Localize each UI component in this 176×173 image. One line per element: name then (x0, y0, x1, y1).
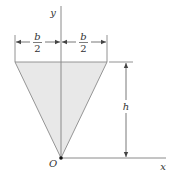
right-half-width-denominator: 2 (80, 43, 86, 54)
left-half-width-denominator: 2 (34, 43, 40, 54)
left-half-width-numerator: b (34, 31, 40, 42)
origin-point (59, 156, 63, 160)
y-axis-label: y (49, 7, 56, 18)
x-axis-label: x (160, 161, 166, 172)
height-label: h (123, 101, 129, 112)
origin-label: O (49, 158, 57, 169)
right-half-width-numerator: b (80, 31, 86, 42)
triangle-diagram: b 2 b 2 h y x O (0, 0, 176, 173)
